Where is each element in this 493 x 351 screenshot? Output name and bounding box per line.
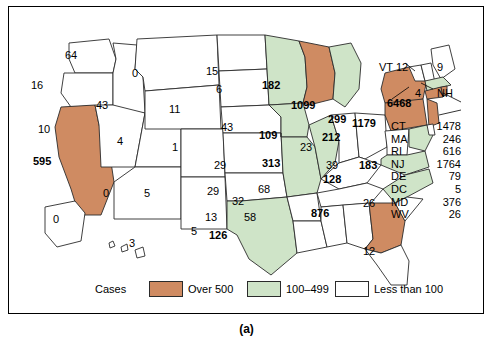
state-shape-nm[interactable] — [181, 177, 227, 229]
map-label-ok: 29 — [207, 185, 219, 197]
map-label-ne: 43 — [221, 121, 233, 133]
map-label-nm: 5 — [144, 187, 150, 199]
map-label-fl: 12 — [363, 245, 375, 257]
map-label-ak: 0 — [53, 213, 59, 225]
state-value-row: NJ1764 — [391, 158, 461, 171]
legend-swatch-100-499 — [247, 281, 281, 297]
map-label-pa: 1179 — [352, 117, 376, 129]
map-label-wa: 64 — [65, 49, 77, 61]
map-label-vt: VT 12 — [379, 61, 408, 73]
map-frame: 64 0 15 16 43 11 6 182 1099 299 VT 12 9 … — [8, 6, 484, 314]
map-label-tn: 26 — [363, 197, 375, 209]
map-legend: Cases Over 500 100–499 Less than 100 — [95, 279, 425, 305]
map-label-ga: 876 — [311, 207, 329, 219]
state-value-row: MA246 — [391, 133, 461, 146]
map-label-nh-value: 4 — [415, 87, 421, 99]
map-label-mo: 313 — [262, 157, 280, 169]
map-label-in: 23 — [300, 141, 312, 153]
map-label-oh: 39 — [326, 159, 338, 171]
map-label-nd: 15 — [206, 65, 218, 77]
map-label-wi: 1099 — [291, 99, 315, 111]
figure-container: 64 0 15 16 43 11 6 182 1099 299 VT 12 9 … — [0, 0, 493, 351]
map-label-ny: 6468 — [387, 97, 411, 109]
state-value-row: MD376 — [391, 196, 461, 209]
map-label-nv: 10 — [38, 123, 50, 135]
state-value: 26 — [421, 208, 461, 221]
map-label-mt: 0 — [132, 67, 138, 79]
map-label-la: 5 — [191, 225, 197, 237]
state-name: RI — [391, 145, 421, 158]
state-shape-hi-3[interactable] — [135, 247, 145, 258]
state-name: MA — [391, 133, 421, 146]
legend-label-less-than-100: Less than 100 — [374, 283, 443, 295]
state-value-row: WV26 — [391, 208, 461, 221]
map-label-ut: 4 — [117, 135, 123, 147]
map-label-hi: 3 — [129, 237, 135, 249]
map-label-ca: 595 — [33, 155, 51, 167]
map-label-or: 16 — [31, 79, 43, 91]
state-value: 616 — [421, 145, 461, 158]
legend-title: Cases — [95, 283, 126, 295]
map-label-ky: 68 — [258, 183, 270, 195]
state-shape-hi-1[interactable] — [109, 241, 115, 248]
map-label-sd: 11 — [169, 103, 180, 115]
map-label-ms: 13 — [205, 211, 217, 223]
map-label-nh: NH — [437, 87, 453, 99]
state-shape-tx[interactable] — [227, 197, 297, 275]
northeast-state-value-list: CT1478 MA246 RI616 NJ1764 DE79 DC5 MD376… — [391, 120, 461, 221]
map-label-nc: 128 — [323, 173, 341, 185]
map-label-co: 1 — [172, 141, 178, 153]
state-value: 79 — [421, 170, 461, 183]
map-label-ks: 29 — [214, 159, 226, 171]
state-shape-al[interactable] — [343, 203, 373, 249]
state-value: 1764 — [421, 158, 461, 171]
legend-swatch-less-than-100 — [335, 281, 369, 297]
state-value-row: RI616 — [391, 145, 461, 158]
legend-label-100-499: 100–499 — [286, 283, 329, 295]
map-label-mi: 299 — [328, 113, 346, 125]
map-label-tx: 126 — [209, 229, 227, 241]
state-shape-hi-2[interactable] — [121, 244, 128, 252]
map-label-il: 212 — [322, 131, 340, 143]
state-name: DE — [391, 170, 421, 183]
figure-caption: (a) — [0, 322, 493, 336]
state-shape-mt[interactable] — [135, 35, 219, 91]
state-shape-nd[interactable] — [217, 35, 267, 71]
state-value-row: DE79 — [391, 170, 461, 183]
state-name: DC — [391, 183, 421, 196]
map-label-mn: 182 — [262, 79, 280, 91]
state-name: WV — [391, 208, 421, 221]
map-label-al: 58 — [244, 211, 256, 223]
map-label-ia: 109 — [259, 129, 277, 141]
map-label-va: 183 — [359, 159, 377, 171]
leader-line-nj — [439, 110, 461, 115]
state-value: 376 — [421, 196, 461, 209]
legend-label-over-500: Over 500 — [188, 283, 233, 295]
state-value-row: DC5 — [391, 183, 461, 196]
state-shape-ak[interactable] — [45, 201, 85, 247]
state-name: CT — [391, 120, 421, 133]
state-value: 246 — [421, 133, 461, 146]
map-label-az: 0 — [103, 187, 109, 199]
state-value-row: CT1478 — [391, 120, 461, 133]
state-name: NJ — [391, 158, 421, 171]
map-label-ar: 32 — [232, 195, 244, 207]
map-label-id: 43 — [96, 99, 108, 111]
legend-swatch-over-500 — [149, 281, 183, 297]
state-name: MD — [391, 196, 421, 209]
state-value: 5 — [421, 183, 461, 196]
map-label-wy: 6 — [216, 83, 222, 95]
map-label-me: 9 — [437, 61, 443, 73]
state-shape-wy[interactable] — [145, 85, 221, 129]
state-value: 1478 — [421, 120, 461, 133]
